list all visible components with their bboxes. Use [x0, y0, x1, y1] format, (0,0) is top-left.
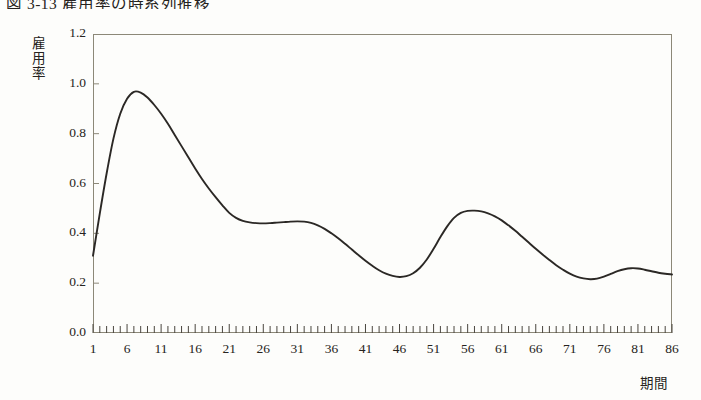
x-tick-label: 26 [248, 341, 278, 357]
x-tick-label: 71 [555, 341, 585, 357]
y-tick-label: 0.6 [52, 175, 86, 191]
x-tick-label: 16 [180, 341, 210, 357]
x-tick-label: 11 [146, 341, 176, 357]
x-tick-label: 76 [589, 341, 619, 357]
x-tick-label: 21 [214, 341, 244, 357]
series-line-employment-rate [93, 91, 672, 279]
y-tick-label: 0.4 [52, 224, 86, 240]
figure-container: 図 3-13 雇用率の時系列推移 雇用率 0.00.20.40.60.81.01… [0, 0, 701, 400]
x-axis-title: 期間 [640, 372, 668, 392]
x-tick-label: 31 [282, 341, 312, 357]
x-tick-label: 51 [419, 341, 449, 357]
y-tick-label: 1.2 [52, 25, 86, 41]
x-tick-label: 61 [487, 341, 517, 357]
axis-ticks [93, 84, 672, 333]
chart-canvas [0, 0, 701, 400]
x-tick-label: 46 [385, 341, 415, 357]
x-tick-label: 56 [453, 341, 483, 357]
x-tick-label: 36 [316, 341, 346, 357]
y-tick-label: 0.2 [52, 274, 86, 290]
y-tick-label: 0.8 [52, 125, 86, 141]
x-tick-label: 41 [350, 341, 380, 357]
x-tick-label: 86 [657, 341, 687, 357]
y-tick-label: 0.0 [52, 324, 86, 340]
y-tick-label: 1.0 [52, 75, 86, 91]
x-tick-label: 66 [521, 341, 551, 357]
x-tick-label: 1 [78, 341, 108, 357]
x-tick-label: 6 [112, 341, 142, 357]
x-tick-label: 81 [623, 341, 653, 357]
